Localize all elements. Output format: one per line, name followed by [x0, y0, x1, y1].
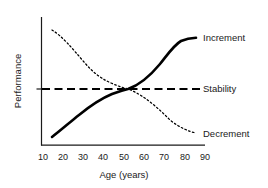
x-tick-label: 30	[78, 152, 88, 162]
x-tick-label: 40	[98, 152, 108, 162]
x-tick-label: 80	[180, 152, 190, 162]
x-tick-label: 90	[200, 152, 210, 162]
x-tick-label: 20	[58, 152, 68, 162]
x-tick-label: 50	[119, 152, 129, 162]
x-tick-label: 70	[159, 152, 169, 162]
series-label-decrement: Decrement	[203, 128, 250, 139]
series-label-increment: Increment	[203, 32, 246, 43]
series-label-stability: Stability	[203, 83, 237, 94]
x-tick-label: 60	[139, 152, 149, 162]
y-axis-title: Performance	[12, 54, 23, 108]
x-axis-title: Age (years)	[99, 169, 148, 180]
chart-figure: 10 20 30 40 50 60 70 80 90 Age (years) P…	[0, 0, 268, 188]
chart-canvas: 10 20 30 40 50 60 70 80 90 Age (years) P…	[0, 0, 268, 188]
x-tick-label: 10	[38, 152, 48, 162]
